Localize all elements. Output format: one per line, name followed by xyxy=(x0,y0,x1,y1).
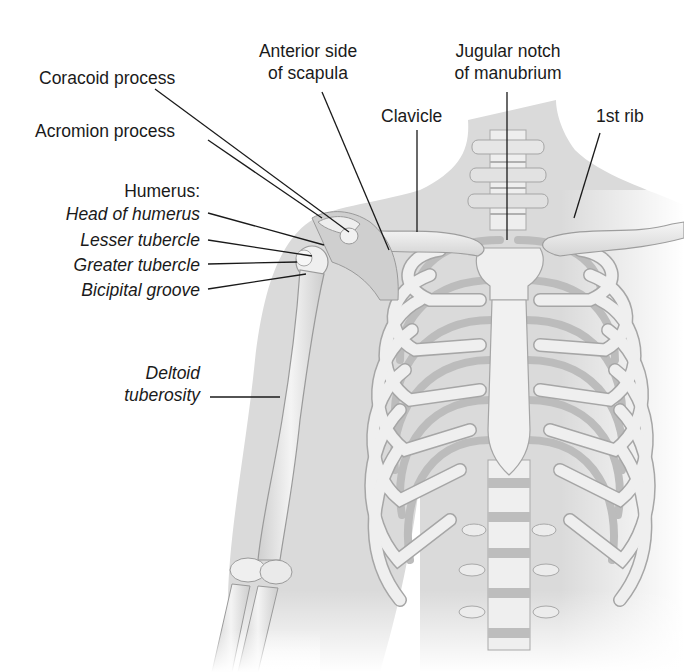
label-head-of-humerus: Head of humerus xyxy=(66,203,200,225)
label-bicipital-groove: Bicipital groove xyxy=(81,279,200,301)
label-lesser-tubercle: Lesser tubercle xyxy=(80,229,200,251)
label-first-rib: 1st rib xyxy=(596,105,644,127)
label-deltoid-tuberosity: Deltoid tuberosity xyxy=(124,362,200,406)
label-greater-tubercle: Greater tubercle xyxy=(74,254,200,276)
label-anterior-scapula-line2: of scapula xyxy=(244,62,372,84)
label-jugular-notch-line2: of manubrium xyxy=(436,62,580,84)
body-silhouette xyxy=(200,100,684,672)
label-jugular-notch: Jugular notch of manubrium xyxy=(436,40,580,84)
label-deltoid-line2: tuberosity xyxy=(124,384,200,406)
acromion-process-leader xyxy=(208,140,322,218)
label-jugular-notch-line1: Jugular notch xyxy=(436,40,580,62)
label-deltoid-line1: Deltoid xyxy=(124,362,200,384)
label-anterior-side-of-scapula: Anterior side of scapula xyxy=(244,40,372,84)
label-acromion-process: Acromion process xyxy=(35,120,175,142)
label-humerus-heading: Humerus: xyxy=(124,180,200,202)
label-anterior-scapula-line1: Anterior side xyxy=(244,40,372,62)
label-coracoid-process: Coracoid process xyxy=(39,67,175,89)
label-clavicle: Clavicle xyxy=(381,105,442,127)
shoulder-girdle-illustration xyxy=(0,0,684,672)
